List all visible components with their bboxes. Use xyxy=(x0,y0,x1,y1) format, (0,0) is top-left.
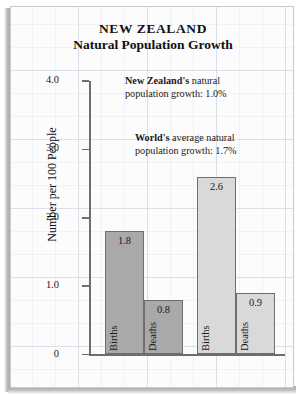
annotation-new-zealand: New Zealand's natural population growth:… xyxy=(125,74,227,101)
y-axis-tick-label: 4.0 xyxy=(19,74,59,85)
y-axis-line xyxy=(89,81,91,355)
chart-subtitle: Natural Population Growth xyxy=(11,37,294,53)
bar-category-label: Deaths xyxy=(147,322,158,351)
bar-category-wrap: Births xyxy=(106,305,143,351)
annotation-new-zealand-line2: population growth: 1.0% xyxy=(125,87,227,100)
y-axis-tick xyxy=(82,285,89,287)
bar-world-deaths: 0.9Deaths xyxy=(236,293,275,355)
bar-category-label: Births xyxy=(108,326,119,352)
chart-panel: NEW ZEALAND Natural Population Growth Ne… xyxy=(10,6,294,388)
bar-category-wrap: Births xyxy=(198,305,235,351)
bar-world-births: 2.6Births xyxy=(197,177,236,355)
y-axis-tick-label: 1.0 xyxy=(19,279,59,290)
annotation-new-zealand-rest: natural xyxy=(189,75,220,86)
y-axis-tick xyxy=(82,149,89,151)
bar-value-label: 1.8 xyxy=(106,235,143,246)
y-axis-tick xyxy=(82,80,89,82)
annotation-world-line2: population growth: 1.7% xyxy=(135,144,237,157)
chart-title: NEW ZEALAND xyxy=(11,21,294,37)
y-axis-tick xyxy=(82,217,89,219)
bar-new-zealand-births: 1.8Births xyxy=(105,231,144,354)
annotation-world-rest: average natural xyxy=(170,132,235,143)
bar-category-label: Deaths xyxy=(239,322,250,351)
annotation-world: World's average natural population growt… xyxy=(135,131,237,158)
bar-category-wrap: Deaths xyxy=(145,305,182,351)
chart-title-block: NEW ZEALAND Natural Population Growth xyxy=(11,21,294,54)
y-axis-label: Number per 100 People xyxy=(45,100,60,270)
annotation-new-zealand-bold: New Zealand's xyxy=(125,75,189,86)
y-axis-tick xyxy=(82,354,89,356)
bar-new-zealand-deaths: 0.8Deaths xyxy=(144,300,183,355)
chart-figure: NEW ZEALAND Natural Population Growth Ne… xyxy=(0,0,302,396)
annotation-world-bold: World's xyxy=(135,132,170,143)
bar-category-wrap: Deaths xyxy=(237,305,274,351)
bar-category-label: Births xyxy=(200,326,211,352)
bar-value-label: 2.6 xyxy=(198,181,235,192)
y-axis-tick-label: 0 xyxy=(19,348,59,359)
